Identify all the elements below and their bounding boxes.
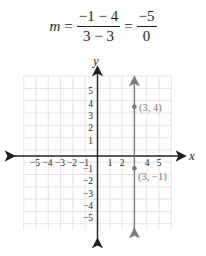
x-tick-labels: −5 −4 −3 −2 −1 1 2 4 5 bbox=[30, 158, 162, 168]
point-label-3-4: (3, 4) bbox=[139, 102, 162, 114]
svg-text:−3: −3 bbox=[55, 158, 65, 168]
coordinate-graph: x y −5 −4 −3 −2 −1 1 2 4 5 5 4 3 2 1 −1 … bbox=[0, 0, 206, 256]
svg-text:4: 4 bbox=[88, 99, 93, 109]
svg-text:−4: −4 bbox=[83, 201, 93, 211]
svg-text:5: 5 bbox=[88, 86, 93, 96]
svg-text:−5: −5 bbox=[30, 158, 40, 168]
svg-text:2: 2 bbox=[120, 158, 125, 168]
svg-text:−4: −4 bbox=[42, 158, 52, 168]
svg-text:−1: −1 bbox=[83, 164, 93, 174]
svg-text:2: 2 bbox=[88, 123, 93, 133]
point-3-4 bbox=[132, 104, 137, 109]
x-axis-label: x bbox=[188, 148, 195, 163]
svg-text:1: 1 bbox=[108, 158, 113, 168]
point-label-3-neg1: (3, −1) bbox=[138, 171, 167, 183]
y-tick-labels: 5 4 3 2 1 −1 −2 −3 −4 −5 bbox=[83, 86, 93, 223]
svg-text:−2: −2 bbox=[83, 176, 93, 186]
svg-text:−2: −2 bbox=[67, 158, 77, 168]
svg-text:1: 1 bbox=[88, 136, 93, 146]
point-3-neg1 bbox=[132, 166, 137, 171]
svg-text:3: 3 bbox=[88, 111, 93, 121]
y-axis-label: y bbox=[91, 53, 99, 68]
svg-text:4: 4 bbox=[145, 158, 150, 168]
svg-text:5: 5 bbox=[157, 158, 162, 168]
svg-text:−3: −3 bbox=[83, 189, 93, 199]
svg-text:−5: −5 bbox=[83, 213, 93, 223]
